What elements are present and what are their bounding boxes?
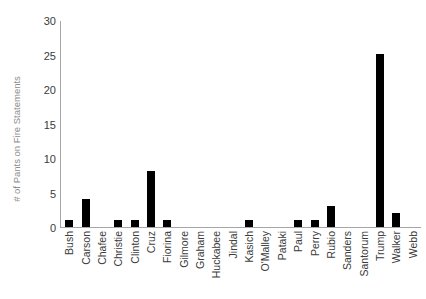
x-label-slot: Bush xyxy=(61,229,77,299)
bar xyxy=(392,213,400,227)
bar-slot xyxy=(257,21,273,227)
x-label-slot: Carson xyxy=(77,229,93,299)
x-label-slot: Huckabee xyxy=(208,229,224,299)
y-axis-tick-label: 25 xyxy=(28,50,56,61)
bar xyxy=(65,220,73,227)
x-label-slot: Sanders xyxy=(339,229,355,299)
y-axis-tick-label: 0 xyxy=(28,223,56,234)
x-axis-tick-label: Christie xyxy=(113,231,124,267)
x-label-slot: Perry xyxy=(306,229,322,299)
x-label-slot: Paul xyxy=(290,229,306,299)
x-label-slot: Santorum xyxy=(355,229,371,299)
x-axis-tick-label: O'Malley xyxy=(260,231,271,272)
x-axis-tick-label: Bush xyxy=(64,231,75,255)
x-axis-tick-label: Graham xyxy=(195,231,206,269)
x-axis-tick-label: Clinton xyxy=(129,231,140,264)
x-axis-tick-label: Cruz xyxy=(146,231,157,253)
bar-slot xyxy=(208,21,224,227)
x-label-slot: Walker xyxy=(388,229,404,299)
y-axis-tick-label: 5 xyxy=(28,188,56,199)
bar-slot xyxy=(323,21,339,227)
y-axis-tick-label: 10 xyxy=(28,154,56,165)
x-label-slot: Trump xyxy=(372,229,388,299)
x-label-slot: Christie xyxy=(110,229,126,299)
x-axis-tick-label: Chafee xyxy=(97,231,108,265)
x-label-slot: Cruz xyxy=(143,229,159,299)
bar-chart: # of Pants on Fire Statements 0510152025… xyxy=(0,0,426,299)
bar-slot xyxy=(159,21,175,227)
x-axis-tick-label: Walker xyxy=(391,231,402,263)
x-axis-tick-label: Huckabee xyxy=(211,231,222,278)
x-axis-tick-label: Rubio xyxy=(326,231,337,258)
y-axis-title: # of Pants on Fire Statements xyxy=(9,34,25,244)
bar xyxy=(376,54,384,227)
x-label-slot: Gilmore xyxy=(176,229,192,299)
bar-slot xyxy=(110,21,126,227)
x-label-slot: Pataki xyxy=(274,229,290,299)
x-label-slot: Webb xyxy=(405,229,421,299)
bar-slot xyxy=(94,21,110,227)
x-axis-tick-label: Sanders xyxy=(342,231,353,270)
y-axis-tick-label: 20 xyxy=(28,85,56,96)
x-axis-tick-label: Webb xyxy=(407,231,418,258)
bar-slot xyxy=(405,21,421,227)
x-axis-tick-label: Perry xyxy=(309,231,320,256)
x-axis-line xyxy=(60,227,421,229)
x-label-slot: Fiorina xyxy=(159,229,175,299)
bar xyxy=(245,220,253,227)
x-label-slot: Clinton xyxy=(126,229,142,299)
x-label-slot: Jindal xyxy=(225,229,241,299)
bar-slot xyxy=(388,21,404,227)
y-axis-tick-labels: 051015202530 xyxy=(28,0,56,299)
bar xyxy=(147,171,155,226)
x-axis-tick-label: Paul xyxy=(293,231,304,252)
bar xyxy=(327,206,335,227)
bar-slot xyxy=(306,21,322,227)
x-label-slot: Kasich xyxy=(241,229,257,299)
x-axis-tick-label: Trump xyxy=(375,231,386,261)
bar xyxy=(311,220,319,227)
bar-slot xyxy=(372,21,388,227)
x-axis-tick-label: Jindal xyxy=(228,231,239,258)
y-axis-tick-label: 15 xyxy=(28,119,56,130)
x-label-slot: Rubio xyxy=(323,229,339,299)
x-label-slot: Chafee xyxy=(94,229,110,299)
bar-slot xyxy=(176,21,192,227)
x-axis-tick-label: Kasich xyxy=(244,231,255,263)
x-axis-tick-labels: BushCarsonChafeeChristieClintonCruzFiori… xyxy=(61,229,421,299)
bar xyxy=(114,220,122,227)
y-axis-tick-label: 30 xyxy=(28,16,56,27)
x-label-slot: Graham xyxy=(192,229,208,299)
bar-slot xyxy=(126,21,142,227)
bar xyxy=(294,220,302,227)
bar-slot xyxy=(241,21,257,227)
bar-slot xyxy=(290,21,306,227)
bar-slot xyxy=(77,21,93,227)
x-label-slot: O'Malley xyxy=(257,229,273,299)
bar-slot xyxy=(61,21,77,227)
bar-slot xyxy=(143,21,159,227)
bar-slot xyxy=(192,21,208,227)
x-axis-tick-label: Gilmore xyxy=(178,231,189,268)
bar-slot xyxy=(225,21,241,227)
bar-slot xyxy=(355,21,371,227)
x-axis-tick-label: Fiorina xyxy=(162,231,173,263)
bar xyxy=(82,199,90,227)
bar-slot xyxy=(339,21,355,227)
bar-slot xyxy=(274,21,290,227)
bar xyxy=(163,220,171,227)
x-axis-tick-label: Carson xyxy=(80,231,91,265)
bars-container xyxy=(61,21,421,227)
plot-area xyxy=(60,21,421,228)
x-axis-tick-label: Santorum xyxy=(358,231,369,277)
x-axis-tick-label: Pataki xyxy=(277,231,288,260)
bar xyxy=(131,220,139,227)
